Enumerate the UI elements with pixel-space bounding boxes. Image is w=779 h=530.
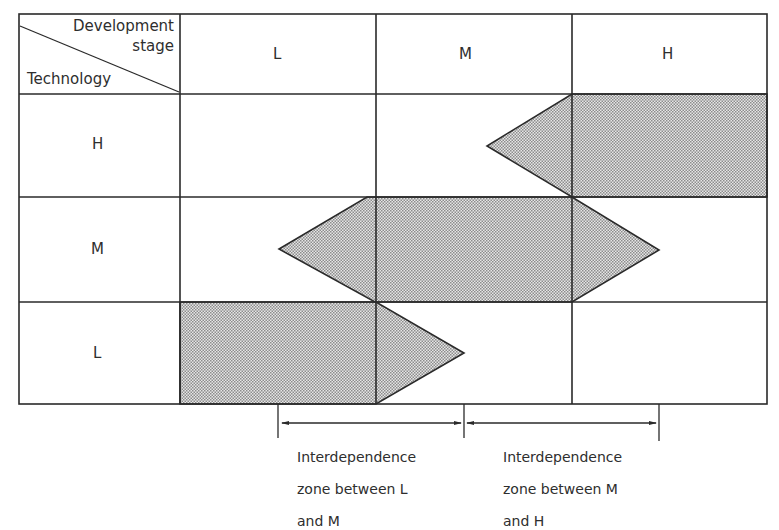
zone-label-l-m-line1: Interdependence (297, 449, 416, 465)
zone-label-m-h-line1: Interdependence (503, 449, 622, 465)
development-label: Development (60, 16, 174, 36)
shaded-region-m-technology (279, 197, 659, 302)
shaded-region-l-technology (180, 302, 464, 404)
header-corner-development-stage: Development stage (60, 16, 174, 56)
zone-label-m-h: Interdependence zone between M and H (503, 433, 622, 530)
row-header-h: H (92, 137, 103, 152)
header-corner-technology: Technology (27, 70, 111, 88)
column-header-m: M (459, 47, 472, 62)
stage-label: stage (60, 36, 174, 56)
zone-label-l-m-line3: and M (297, 513, 416, 529)
zone-label-l-m: Interdependence zone between L and M (297, 433, 416, 530)
column-header-l: L (273, 47, 281, 62)
zone-label-m-h-line2: zone between M (503, 481, 622, 497)
row-header-m: M (91, 242, 104, 257)
zone-label-l-m-line2: zone between L (297, 481, 416, 497)
column-header-h: H (662, 47, 673, 62)
row-header-l: L (93, 346, 101, 361)
shaded-region-h-technology (487, 94, 767, 197)
zone-label-m-h-line3: and H (503, 513, 622, 529)
